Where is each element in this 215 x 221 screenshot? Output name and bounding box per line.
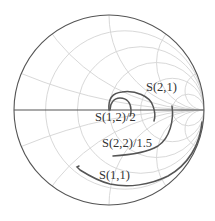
smith-chart: S(2,1) S(1,2)/2 S(2,2)/1.5 S(1,1) — [0, 0, 215, 221]
label-s11: S(1,1) — [99, 168, 130, 182]
reactance-arc-+0.2 — [0, 0, 215, 110]
label-s22: S(2,2)/1.5 — [102, 136, 152, 150]
label-s21: S(2,1) — [146, 80, 177, 94]
curve-s11 — [77, 122, 202, 186]
label-s12: S(1,2)/2 — [95, 110, 136, 124]
